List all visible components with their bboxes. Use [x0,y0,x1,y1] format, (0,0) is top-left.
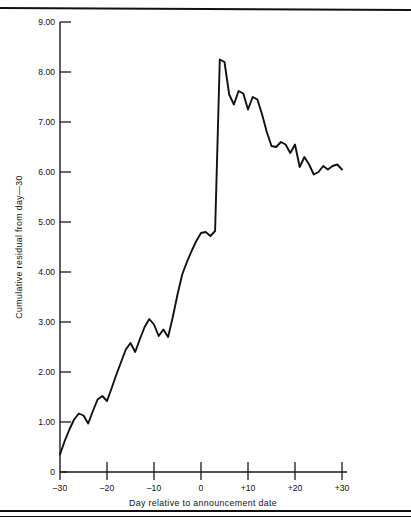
y-tick-label-0: 0 [50,467,55,477]
y-tick-label-1: 1.00 [38,417,55,427]
figure-frame: 0 1.00 2.00 3.00 4.00 5.00 6.00 7.00 8.0… [0,0,411,522]
x-axis-ticks [60,462,342,480]
x-tick-label-pos20: +20 [288,483,303,493]
y-tick-label-4: 4.00 [38,267,55,277]
y-axis-ticks [60,22,71,472]
y-tick-label-2: 2.00 [38,367,55,377]
y-tick-label-3: 3.00 [38,317,55,327]
y-axis-title: Cumulative residual from day—30 [14,175,24,318]
y-axis-tick-labels: 0 1.00 2.00 3.00 4.00 5.00 6.00 7.00 8.0… [38,17,55,477]
x-tick-label-neg20: –20 [100,483,115,493]
y-tick-label-7: 7.00 [38,117,55,127]
x-axis-title: Day relative to announcement date [129,498,277,508]
y-axis: 0 1.00 2.00 3.00 4.00 5.00 6.00 7.00 8.0… [14,17,71,477]
x-tick-label-neg30: –30 [53,483,68,493]
y-tick-label-8: 8.00 [38,67,55,77]
x-axis-tick-labels: –30 –20 –10 0 +10 +20 +30 [53,483,350,493]
x-axis: –30 –20 –10 0 +10 +20 +30 Day relative t… [53,462,350,508]
y-tick-label-5: 5.00 [38,217,55,227]
cumulative-residual-series-line [60,60,342,455]
x-tick-label-pos10: +10 [241,483,256,493]
bottom-divider-rule-thick [0,510,411,512]
x-tick-label-pos30: +30 [335,483,350,493]
x-tick-label-0: 0 [199,483,204,493]
x-tick-label-neg10: –10 [147,483,162,493]
bottom-divider-rule-thin [0,516,411,517]
cumulative-residual-line-chart: 0 1.00 2.00 3.00 4.00 5.00 6.00 7.00 8.0… [0,0,411,522]
y-tick-label-6: 6.00 [38,167,55,177]
y-tick-label-9: 9.00 [38,17,55,27]
